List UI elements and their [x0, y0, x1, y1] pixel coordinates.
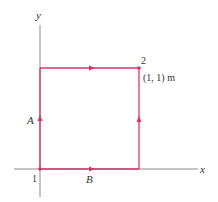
point-1-label: 1 [32, 173, 37, 184]
path-b-label: B [86, 173, 93, 185]
x-axis-label: x [199, 163, 205, 175]
y-axis-label: y [35, 9, 41, 21]
arrow-up-icon [38, 115, 43, 121]
point-2-coords: (1, 1) m [143, 72, 175, 84]
path-a-label: A [26, 114, 34, 126]
point-1-dot [38, 167, 42, 171]
arrow-up-icon [137, 116, 142, 122]
arrow-right-icon [89, 66, 95, 71]
square-path [40, 68, 139, 169]
path-diagram: y x 2 (1, 1) m A 1 B [0, 0, 218, 202]
point-2-dot [137, 66, 141, 70]
arrow-right-icon [89, 167, 95, 172]
point-2-label: 2 [141, 55, 146, 66]
